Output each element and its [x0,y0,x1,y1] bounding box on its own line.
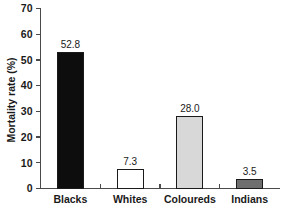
bar-value-label: 28.0 [180,103,200,114]
bar [117,170,143,189]
y-tick-label: 30 [21,105,33,117]
y-tick-label: 40 [21,79,33,91]
x-tick-label: Coloureds [164,193,216,205]
bar-value-label: 52.8 [61,39,81,50]
bars-group [57,53,262,189]
bar [237,180,263,189]
x-tick-label: Blacks [53,193,87,205]
y-tick-label: 50 [21,54,33,66]
y-tick-label: 20 [21,131,33,143]
x-tick-label: Indians [231,193,268,205]
bar-value-label: 7.3 [123,156,137,167]
value-labels-group: 52.87.328.03.5 [61,39,257,177]
bar [177,117,203,189]
y-axis-title: Mortality rate (%) [5,57,17,142]
x-tick-label: Whites [113,193,148,205]
y-tick-label: 60 [21,28,33,40]
y-tick-label: 70 [21,2,33,14]
bar [57,53,83,189]
y-tick-label: 0 [27,182,33,194]
chart-canvas: Mortality rate (%) 010203040506070 52.87… [0,0,286,215]
y-axis: 010203040506070 [21,2,41,194]
bar-chart: Mortality rate (%) 010203040506070 52.87… [0,0,286,215]
y-tick-label: 10 [21,157,33,169]
x-tick-labels-group: BlacksWhitesColouredsIndians [53,193,268,205]
y-axis-title-group: Mortality rate (%) [5,57,17,142]
bar-value-label: 3.5 [243,166,257,177]
